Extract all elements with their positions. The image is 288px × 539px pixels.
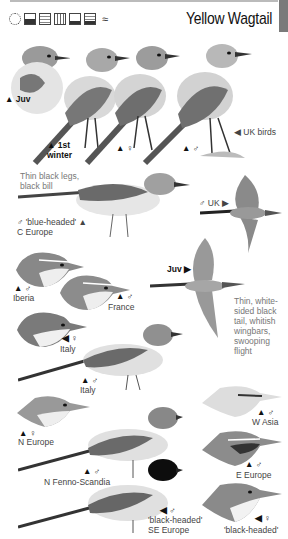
label-w-asia-symbol: ▲ ♂ — [257, 407, 274, 417]
label-black-headed-male: 'black-headed' — [148, 515, 202, 525]
label-italy-male-symbol: ▲ ♂ — [81, 375, 98, 385]
label-juv-flight: Juv ▶ — [167, 264, 191, 274]
label-se-europe: SE Europe — [148, 525, 189, 535]
label-juv: ▲ Juv — [5, 94, 30, 104]
label-iberia: Iberia — [13, 293, 34, 303]
farmland-icon — [39, 13, 51, 25]
coast-icon — [24, 13, 36, 25]
label-male: ▲ ♂ — [182, 143, 199, 153]
note-flight: Thin, white-sided black tail, whitish wi… — [234, 296, 286, 356]
label-black-headed-female-symbol: ◀ ♀ — [255, 513, 271, 523]
label-w-asia: W Asia — [252, 417, 278, 427]
label-italy-male: Italy — [80, 385, 96, 395]
sun-open-country-icon — [9, 13, 21, 25]
bird-male-uk-illustration — [140, 38, 275, 168]
reedbed-icon — [54, 13, 66, 25]
wetland-icon — [84, 13, 96, 25]
label-1st-winter: ▲ 1st winter — [47, 140, 87, 160]
label-female: ▲ ♀ — [116, 143, 133, 153]
label-fenno-symbol: ▲ ♂ — [83, 466, 100, 476]
label-male-uk-flight: ♂ UK ▶ — [199, 198, 229, 208]
page-title: Yellow Wagtail — [186, 9, 272, 29]
section-edge-tab — [279, 0, 288, 32]
label-italy-female: Italy — [60, 344, 76, 354]
label-n-europe: N Europe — [18, 437, 54, 447]
label-e-europe-symbol: ▲ ♂ — [245, 459, 262, 469]
head-black-headed-female-illustration — [200, 480, 285, 525]
label-france-symbol: ▲ ♂ — [116, 291, 133, 301]
label-iberia-symbol: ▲ ♂ — [14, 283, 31, 293]
label-black-headed-female: 'black-headed' — [224, 525, 278, 535]
label-c-europe: C Europe — [17, 227, 53, 237]
note-legs-bill: Thin black legs, black bill — [20, 171, 82, 191]
water-icon: ≈ — [99, 13, 111, 25]
label-e-europe: E Europe — [236, 470, 271, 480]
label-uk-birds: ◀ UK birds — [234, 127, 276, 137]
head-e-europe-illustration — [200, 428, 285, 473]
grassland-icon — [69, 13, 81, 25]
page-top-rule — [10, 0, 278, 2]
label-france: France — [108, 302, 134, 312]
bird-italy-male-illustration — [18, 315, 183, 390]
label-blue-headed: ♂ 'blue-headed' ▲ — [17, 217, 87, 227]
habitat-icon-strip: ≈ — [9, 13, 111, 25]
label-black-headed-male-symbol: ◀ ♂ — [160, 505, 176, 515]
label-fenno-scandia: N Fenno-Scandia — [44, 477, 110, 487]
label-italy-female-symbol: ◀ ♀ — [62, 333, 78, 343]
